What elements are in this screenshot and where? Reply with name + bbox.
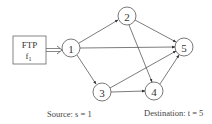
edge-2-4 xyxy=(129,25,152,82)
ftp-box-title: FTP xyxy=(22,40,38,50)
source-caption: Source: s = 1 xyxy=(47,109,92,119)
network-diagram: FTP f1 1 2 3 4 5 Source: s = 1 xyxy=(0,0,212,124)
ftp-flow-box: FTP f1 xyxy=(13,36,46,64)
svg-text:3: 3 xyxy=(99,87,105,99)
edge-3-4 xyxy=(111,91,145,92)
node-5: 5 xyxy=(175,38,193,56)
node-3: 3 xyxy=(93,83,111,101)
node-4: 4 xyxy=(145,82,163,100)
node-1: 1 xyxy=(62,39,80,57)
svg-text:5: 5 xyxy=(181,42,187,54)
svg-text:4: 4 xyxy=(151,86,157,98)
edge-3-5 xyxy=(110,51,176,88)
edge-1-3 xyxy=(77,55,96,84)
double-arrow-icon xyxy=(46,46,62,54)
edge-1-5 xyxy=(80,47,175,48)
destination-caption: Destination: t = 5 xyxy=(144,108,203,118)
svg-text:2: 2 xyxy=(124,11,130,23)
edge-1-2 xyxy=(79,20,118,43)
edges xyxy=(77,20,179,92)
node-2: 2 xyxy=(118,7,136,25)
edge-2-5 xyxy=(135,20,176,42)
edge-4-5 xyxy=(160,55,179,84)
svg-text:1: 1 xyxy=(68,43,74,55)
